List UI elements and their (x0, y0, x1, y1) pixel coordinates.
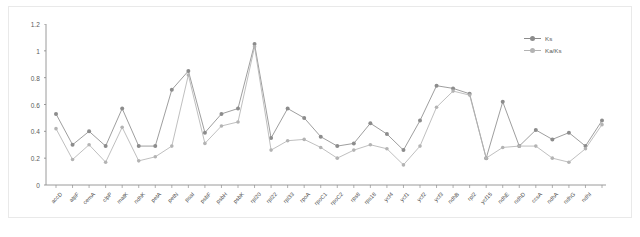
data-point (352, 148, 356, 152)
chart-svg (44, 24, 606, 209)
series-ks (54, 42, 604, 160)
data-point (501, 100, 505, 104)
data-point (501, 146, 505, 150)
data-point (534, 128, 538, 132)
legend-label: Ks (545, 35, 552, 42)
data-point (87, 143, 91, 147)
legend-item[interactable]: Ks (524, 33, 552, 44)
data-point (236, 107, 240, 111)
data-point (153, 155, 157, 159)
data-point (253, 45, 257, 49)
data-point (104, 160, 108, 164)
data-point (435, 84, 439, 88)
x-axis-tick-labels: accDatpFcemAclpPmatKndhKpetApetNpsaIpsbF… (44, 188, 606, 236)
y-tick-label: 0.8 (31, 74, 40, 81)
legend-marker-dot (530, 36, 535, 41)
x-tick-label: rpoC2 (329, 191, 344, 206)
x-tick-label: rpl22 (265, 191, 278, 204)
data-point (186, 69, 190, 73)
legend-line-swatch (524, 50, 541, 51)
data-point (286, 107, 290, 111)
data-point (418, 144, 422, 148)
x-tick-label: ndhK (132, 191, 146, 205)
x-tick-label: ndhG (562, 191, 576, 205)
data-point (385, 147, 389, 151)
x-tick-label: psbK (232, 191, 245, 204)
x-tick-label: ycf4 (383, 191, 395, 203)
x-tick-label: ccsA (530, 191, 543, 204)
x-tick-label: rpl20 (249, 191, 262, 204)
x-tick-label: rps8 (349, 191, 361, 203)
x-tick-label: psaI (184, 191, 196, 203)
y-tick-label: 1.2 (31, 21, 40, 28)
data-point (302, 138, 306, 142)
x-tick-label: clpP (101, 191, 113, 203)
legend-line-swatch (524, 38, 541, 39)
x-tick-label: ndhB (447, 191, 461, 205)
data-point (104, 144, 108, 148)
data-point (600, 123, 604, 127)
data-point (484, 156, 488, 160)
data-point (203, 131, 207, 135)
x-tick-label: ndhA (546, 191, 560, 205)
plot-area (44, 24, 606, 209)
data-point (203, 142, 207, 146)
y-tick-label: 0.6 (31, 101, 40, 108)
data-point (54, 112, 58, 116)
data-point (418, 119, 422, 123)
data-point (170, 144, 174, 148)
data-point (120, 107, 124, 111)
series-ka-ks (54, 45, 604, 167)
data-point (71, 158, 75, 162)
x-tick-label: rpoC1 (313, 191, 328, 206)
data-point (71, 143, 75, 147)
x-tick-label: petN (166, 191, 179, 204)
x-tick-label: ycf3 (432, 191, 444, 203)
data-point (584, 147, 588, 151)
data-point (369, 143, 373, 147)
y-axis-tick-labels: 00.20.40.60.811.2 (12, 24, 40, 185)
y-tick-label: 0.2 (31, 155, 40, 162)
data-point (517, 144, 521, 148)
x-tick-label: cemA (82, 191, 96, 205)
x-tick-label: petA (150, 191, 163, 204)
y-tick-label: 1 (36, 47, 40, 54)
x-tick-label: rpl33 (282, 191, 295, 204)
data-point (137, 159, 141, 163)
data-point (402, 163, 406, 167)
data-point (87, 129, 91, 133)
data-point (269, 148, 273, 152)
data-point (352, 141, 356, 145)
data-point (567, 160, 571, 164)
data-point (385, 132, 389, 136)
data-point (600, 119, 604, 123)
data-point (401, 148, 405, 152)
chart-screenshot: 00.20.40.60.811.2 accDatpFcemAclpPmatKnd… (0, 0, 640, 237)
y-tick-label: 0.4 (31, 128, 40, 135)
legend-item[interactable]: Ka/Ks (524, 45, 562, 56)
data-point (137, 144, 141, 148)
data-point (187, 73, 191, 77)
data-point (319, 146, 323, 150)
legend-marker-dot (530, 48, 535, 53)
x-tick-label: ndhD (513, 191, 527, 205)
data-point (153, 144, 157, 148)
data-point (468, 93, 472, 97)
chart-legend: KsKa/Ks (524, 33, 618, 59)
data-point (54, 127, 58, 131)
data-point (368, 121, 372, 125)
x-tick-label: atpF (67, 191, 79, 203)
data-point (236, 120, 240, 124)
x-tick-label: ycf15 (480, 191, 494, 205)
x-tick-label: rpoA (299, 191, 312, 204)
data-point (120, 126, 124, 130)
data-point (551, 156, 555, 160)
x-tick-label: rpl2 (466, 191, 477, 202)
data-point (170, 88, 174, 92)
x-tick-label: rps18 (363, 191, 377, 205)
x-tick-label: matK (116, 191, 130, 205)
x-tick-label: ycf1 (399, 191, 411, 203)
x-tick-label: accD (50, 191, 63, 204)
data-point (335, 144, 339, 148)
data-point (550, 137, 554, 141)
